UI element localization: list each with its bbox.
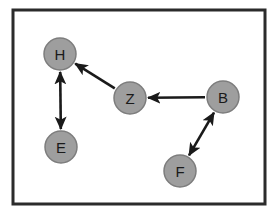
graph-node-h[interactable]: H [44,38,76,70]
graph-svg: HEZBF [0,0,280,217]
node-label-h: H [55,46,66,63]
graph-node-f[interactable]: F [164,155,196,187]
node-label-z: Z [125,90,134,107]
edge-z-h [75,64,115,89]
nodes-layer: HEZBF [44,38,239,187]
node-label-f: F [175,163,184,180]
graph-diagram-canvas: HEZBF [0,0,280,217]
node-label-b: B [218,89,228,106]
edge-b-z [148,97,205,98]
graph-node-z[interactable]: Z [114,82,146,114]
edge-h-e [60,72,61,129]
graph-node-b[interactable]: B [207,81,239,113]
node-label-e: E [56,139,66,156]
graph-node-e[interactable]: E [45,131,77,163]
edge-b-f [189,113,214,156]
